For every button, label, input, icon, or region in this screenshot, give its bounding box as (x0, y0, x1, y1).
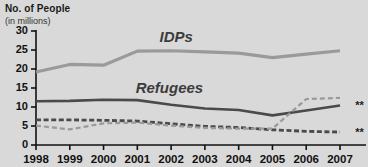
x-axis-tick-label: 1998 (23, 153, 49, 165)
footnote-marker: ** (355, 99, 364, 111)
chart-annotations: IDPsRefugees**** (136, 28, 365, 138)
x-axis: 1998199920002001200220032004200520062007 (23, 145, 366, 165)
y-axis-tick-label: 0 (22, 138, 28, 150)
footnote-marker: ** (355, 126, 364, 138)
x-axis-tick-label: 1999 (57, 153, 83, 165)
y-axis: 051015202530 (16, 24, 36, 150)
x-axis-tick-label: 2002 (158, 153, 184, 165)
x-axis-tick-label: 2005 (260, 153, 286, 165)
x-axis-tick-label: 2003 (192, 153, 218, 165)
series-label-idps: IDPs (160, 28, 193, 45)
x-axis-tick-label: 2001 (125, 153, 151, 165)
x-axis-tick-label: 2007 (327, 153, 353, 165)
series-label-refugees: Refugees (136, 79, 204, 96)
y-axis-tick-label: 30 (16, 24, 28, 36)
chart-container: No. of People (in millions) 051015202530… (0, 0, 368, 167)
x-axis-tick-label: 2000 (91, 153, 117, 165)
y-axis-tick-label: 5 (22, 119, 28, 131)
x-axis-tick-label: 2006 (293, 153, 319, 165)
y-axis-tick-label: 10 (16, 100, 28, 112)
y-axis-tick-label: 25 (16, 43, 28, 55)
y-axis-tick-label: 15 (16, 81, 28, 93)
series-line-refugees (36, 100, 340, 116)
y-axis-tick-label: 20 (16, 62, 28, 74)
x-axis-tick-label: 2004 (226, 153, 252, 165)
series-line-idps (36, 51, 340, 72)
line-chart-svg: 051015202530 199819992000200120022003200… (0, 0, 368, 167)
